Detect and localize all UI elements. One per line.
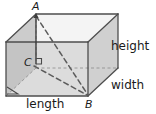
dimension-label-length: length: [26, 98, 64, 110]
figure-canvas: A B C height width length: [0, 0, 156, 114]
dimension-label-width: width: [111, 79, 144, 91]
dimension-label-height: height: [111, 40, 149, 52]
vertex-label-C: C: [24, 57, 32, 68]
vertex-label-A: A: [32, 1, 40, 12]
vertex-label-B: B: [85, 99, 93, 110]
